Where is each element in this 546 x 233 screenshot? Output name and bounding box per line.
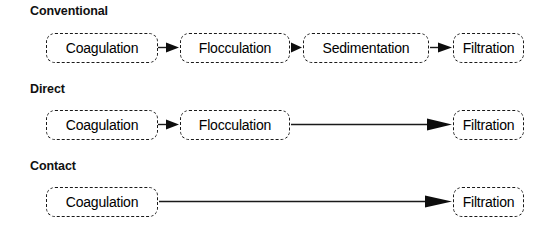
node-filtration[interactable]: Filtration	[453, 110, 524, 140]
node-sedimentation[interactable]: Sedimentation	[303, 33, 429, 63]
arrow-sedimentation-to-filtration	[430, 41, 453, 54]
node-filtration[interactable]: Filtration	[453, 187, 524, 217]
arrow-flocculation-to-sedimentation	[291, 41, 303, 54]
node-filtration[interactable]: Filtration	[453, 33, 524, 63]
process-row-direct: Direct Coagulation Flocculation Filtrati…	[0, 78, 546, 155]
arrow-coagulation-to-filtration	[159, 195, 453, 208]
node-flocculation[interactable]: Flocculation	[180, 33, 290, 63]
process-flow-diagram: Conventional Coagulation Flocculation Se…	[0, 0, 546, 233]
row-title-contact: Contact	[30, 159, 76, 173]
arrow-coagulation-to-flocculation	[158, 41, 180, 54]
node-coagulation[interactable]: Coagulation	[46, 33, 158, 63]
arrow-coagulation-to-flocculation	[158, 118, 180, 131]
arrow-flocculation-to-filtration	[291, 118, 453, 131]
node-flocculation[interactable]: Flocculation	[180, 110, 290, 140]
node-coagulation[interactable]: Coagulation	[46, 187, 158, 217]
node-coagulation[interactable]: Coagulation	[46, 110, 158, 140]
process-row-contact: Contact Coagulation Filtration	[0, 155, 546, 233]
row-title-conventional: Conventional	[30, 4, 108, 18]
process-row-conventional: Conventional Coagulation Flocculation Se…	[0, 0, 546, 78]
row-title-direct: Direct	[30, 82, 65, 96]
